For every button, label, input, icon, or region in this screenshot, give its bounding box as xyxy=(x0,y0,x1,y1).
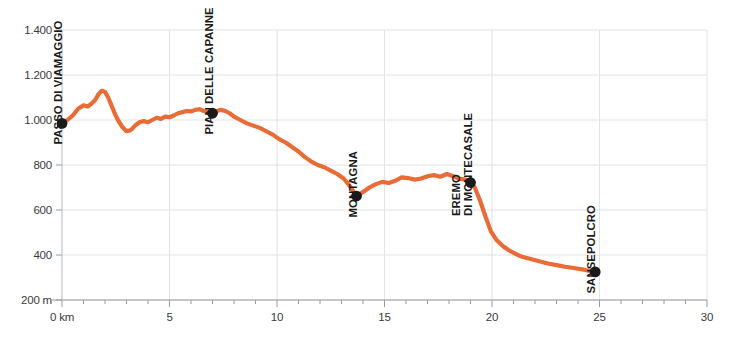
x-tick-label: 25 xyxy=(593,311,605,323)
x-tick-label: 20 xyxy=(486,311,498,323)
plot-area xyxy=(0,0,735,337)
y-tick-label: 800 xyxy=(33,159,52,171)
waypoint-label-line2: DI MONTECASALE xyxy=(462,113,474,216)
waypoint-label-line1: MONTAGNA xyxy=(347,151,359,217)
x-tick-label: 5 xyxy=(166,311,172,323)
y-tick-label: 400 xyxy=(33,249,52,261)
elevation-profile-chart: 1.4001.2001.000800600400200 m 0 km510152… xyxy=(0,0,735,337)
grid-lines xyxy=(62,30,707,300)
waypoint-markers xyxy=(57,108,601,277)
waypoint-label-eremo-di-montecasale: EREMODI MONTECASALE xyxy=(450,113,473,216)
y-tick-label: 1.400 xyxy=(24,24,52,36)
x-tick-label: 30 xyxy=(701,311,713,323)
waypoint-label-line1: SANSEPOLCRO xyxy=(586,205,598,293)
y-tick-label: 1.200 xyxy=(24,69,52,81)
waypoint-label-montagna: MONTAGNA xyxy=(348,151,360,217)
x-tick-label: 15 xyxy=(378,311,390,323)
waypoint-label-line1: PIAN DELLE CAPANNE xyxy=(203,8,215,135)
y-tick-label: 200 m xyxy=(21,294,52,306)
waypoint-label-line1: EREMO xyxy=(449,174,461,216)
y-tick-label: 600 xyxy=(33,204,52,216)
elevation-line xyxy=(62,91,595,272)
waypoint-label-pian-delle-capanne: PIAN DELLE CAPANNE xyxy=(204,8,216,135)
waypoint-label-line1: PASSO DI VIAMAGGIO xyxy=(52,21,64,145)
elevation-polyline xyxy=(62,91,595,272)
y-tick-label: 1.000 xyxy=(24,114,52,126)
waypoint-label-passo-di-viamaggio: PASSO DI VIAMAGGIO xyxy=(53,21,65,145)
axis-ticks xyxy=(56,30,707,307)
x-tick-label: 10 xyxy=(271,311,283,323)
x-tick-label: 0 km xyxy=(50,311,74,323)
waypoint-label-sansepolcro: SANSEPOLCRO xyxy=(587,205,599,293)
